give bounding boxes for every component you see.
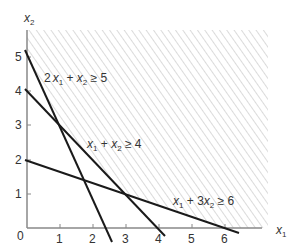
x-tick-label: 3 bbox=[122, 232, 129, 246]
y-tick-label: 1 bbox=[15, 187, 22, 201]
y-tick-label: 3 bbox=[15, 118, 22, 132]
origin-label: 0 bbox=[17, 229, 24, 243]
y-tick-label: 5 bbox=[15, 50, 22, 64]
y-axis-label: x2 bbox=[23, 11, 35, 27]
y-tick-label: 2 bbox=[15, 153, 22, 167]
lp-diagram: 0 1 2 3 4 5 6 1 2 3 4 5 x2 x1 2x1 + x2 ≥… bbox=[0, 0, 301, 252]
x-axis-label: x1 bbox=[275, 223, 287, 239]
x-tick-label: 4 bbox=[155, 232, 162, 246]
x-tick-label: 5 bbox=[188, 232, 195, 246]
constraint-label-1: 2x1 + x2 ≥ 5 bbox=[44, 71, 108, 87]
y-tick-label: 4 bbox=[15, 84, 22, 98]
x-tick-label: 2 bbox=[89, 232, 96, 246]
x-tick-label: 1 bbox=[56, 232, 63, 246]
x-tick-label: 6 bbox=[221, 232, 228, 246]
